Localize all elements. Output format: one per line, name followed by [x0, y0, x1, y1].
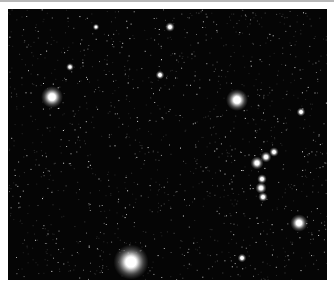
top-border	[0, 0, 334, 2]
star-field-image	[8, 9, 327, 280]
star-field-canvas	[8, 9, 327, 280]
